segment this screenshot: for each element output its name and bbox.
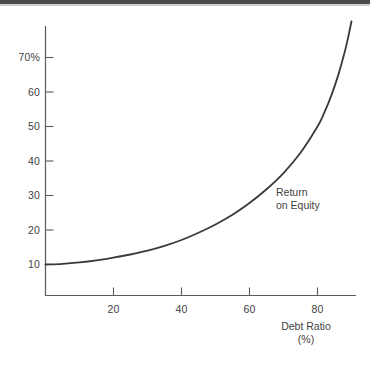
y-tick-label-40: 40 bbox=[6, 155, 40, 167]
y-tick-label-20: 20 bbox=[6, 224, 40, 236]
y-tick-label-70: 70% bbox=[6, 51, 40, 63]
x-tick-label-40: 40 bbox=[162, 303, 202, 315]
x-axis-title: Debt Ratio (%) bbox=[256, 320, 356, 346]
x-axis-title-text: Debt Ratio bbox=[281, 320, 331, 332]
x-tick-label-80: 80 bbox=[298, 303, 338, 315]
y-tick-label-30: 30 bbox=[6, 189, 40, 201]
y-tick-label-50: 50 bbox=[6, 120, 40, 132]
series-annotation: Return on Equity bbox=[276, 186, 320, 212]
x-axis-unit-text: (%) bbox=[256, 333, 356, 346]
y-tick-label-10: 10 bbox=[6, 258, 40, 270]
x-axis-ticks bbox=[114, 288, 318, 296]
x-tick-label-20: 20 bbox=[94, 303, 134, 315]
series-line-return-on-equity bbox=[46, 21, 352, 264]
series-annotation-line-2: on Equity bbox=[276, 199, 320, 212]
series-annotation-line-1: Return bbox=[276, 186, 320, 199]
x-tick-label-60: 60 bbox=[230, 303, 270, 315]
y-tick-label-60: 60 bbox=[6, 86, 40, 98]
chart-figure: 70% 60 50 40 30 20 10 20 40 60 80 Debt R… bbox=[0, 0, 370, 371]
y-axis-ticks bbox=[46, 58, 54, 265]
